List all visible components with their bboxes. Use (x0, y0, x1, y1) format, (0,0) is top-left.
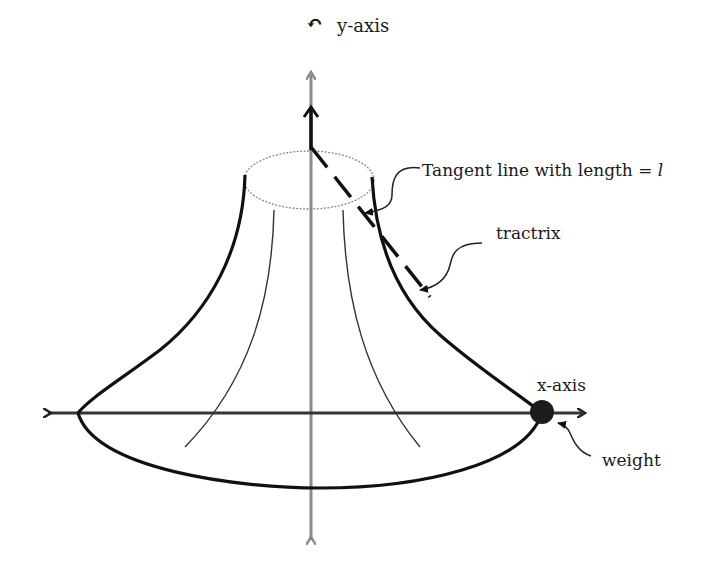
right-tractrix-outline (372, 177, 542, 413)
tangent-line-dashed (311, 147, 430, 297)
tangent-length-symbol: l (658, 160, 663, 180)
inner-curve-left (185, 210, 274, 447)
tractrix-label: tractrix (496, 223, 561, 243)
inner-curve-right (343, 210, 420, 447)
weight-dot (530, 400, 554, 424)
left-tractrix-outline (78, 175, 245, 413)
weight-label: weight (602, 450, 661, 470)
tangent-line-label: Tangent line with length = l (422, 160, 663, 180)
top-rim-ellipse (244, 151, 374, 209)
weight-callout-pointer (558, 423, 591, 456)
tractrix-callout-pointer (420, 243, 482, 290)
rotation-icon: ↶ (306, 11, 323, 35)
tangent-line-text: Tangent line with length = (422, 160, 658, 180)
y-axis-label: y-axis (336, 15, 389, 36)
x-axis-label: x-axis (537, 375, 586, 395)
tractrix-diagram: ↶ y-axis Tangent line with length = l tr… (0, 0, 704, 575)
